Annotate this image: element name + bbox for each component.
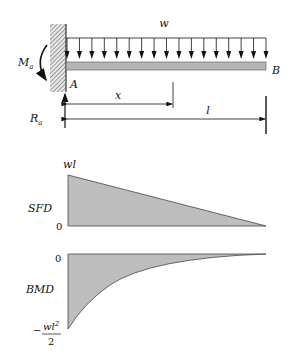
load-arrow-icon xyxy=(189,51,194,59)
load-arrow-icon xyxy=(127,51,132,59)
sfd-chart: wl SFD 0 xyxy=(28,158,266,232)
svg-text:2: 2 xyxy=(48,336,54,347)
bmd-label: BMD xyxy=(25,283,54,296)
reaction-label: Ra xyxy=(29,112,42,127)
load-arrow-icon xyxy=(164,51,169,59)
load-arrow-icon xyxy=(89,51,94,59)
beam xyxy=(66,62,266,70)
moment-arrow-icon xyxy=(40,45,47,80)
dim-x-label: x xyxy=(115,89,122,102)
dim-l-label: l xyxy=(206,104,210,117)
sfd-top-value: wl xyxy=(63,158,76,171)
end-a-label: A xyxy=(69,78,78,91)
sfd-label: SFD xyxy=(28,202,52,215)
svg-text:−: − xyxy=(33,325,41,336)
load-arrow-icon xyxy=(214,51,219,59)
load-arrow-icon xyxy=(201,51,206,59)
bmd-chart: 0 BMD − wl2 2 xyxy=(25,253,266,347)
load-arrow-icon xyxy=(102,51,107,59)
load-arrow-icon xyxy=(239,51,244,59)
load-arrow-icon xyxy=(251,51,256,59)
svg-text:wl2: wl2 xyxy=(43,320,60,332)
fixed-wall xyxy=(50,24,66,92)
sfd-zero: 0 xyxy=(56,221,62,232)
moment-label: Ma xyxy=(17,56,33,71)
bmd-min-value: − wl2 2 xyxy=(33,320,61,347)
load-arrow-icon xyxy=(226,51,231,59)
load-label: w xyxy=(159,17,169,30)
load-arrow-icon xyxy=(77,51,82,59)
sfd-area xyxy=(68,175,266,226)
load-arrow-icon xyxy=(152,51,157,59)
load-arrow-icon xyxy=(264,51,269,59)
distributed-load xyxy=(65,38,269,59)
bmd-area xyxy=(68,254,266,329)
cantilever-diagram: w A B Ma Ra x l wl SFD 0 0 BMD − wl2 2 xyxy=(0,0,296,361)
end-b-label: B xyxy=(271,64,280,77)
load-arrow-icon xyxy=(139,51,144,59)
load-arrow-icon xyxy=(176,51,181,59)
load-arrow-icon xyxy=(114,51,119,59)
bmd-zero: 0 xyxy=(55,253,61,264)
